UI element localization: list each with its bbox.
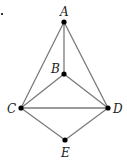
edges bbox=[21, 22, 108, 140]
label-a: A bbox=[59, 5, 69, 19]
node-c bbox=[18, 105, 23, 110]
node-a bbox=[61, 19, 66, 24]
edge-d-e bbox=[65, 108, 108, 140]
label-c: C bbox=[7, 102, 16, 116]
edge-c-e bbox=[21, 108, 65, 140]
graph-diagram: A B C D E bbox=[0, 0, 127, 166]
edge-a-d bbox=[64, 22, 108, 108]
label-d: D bbox=[112, 102, 123, 116]
label-e: E bbox=[60, 146, 70, 160]
edge-b-d bbox=[64, 74, 108, 108]
node-e bbox=[62, 137, 67, 142]
item-marker-dot bbox=[1, 13, 3, 15]
node-d bbox=[105, 105, 110, 110]
node-b bbox=[61, 71, 66, 76]
labels: A B C D E bbox=[7, 5, 123, 160]
label-b: B bbox=[50, 62, 60, 76]
edge-b-c bbox=[21, 74, 64, 108]
